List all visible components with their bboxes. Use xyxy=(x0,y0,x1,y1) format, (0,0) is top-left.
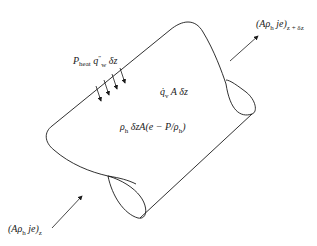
inflow-label: (Aρh je)z xyxy=(8,224,42,237)
inflow-arrow xyxy=(52,196,82,228)
stored-energy-label: ρh δzA(e − P/ρh) xyxy=(120,122,186,135)
outflow-label: (Aρh je)z + δz xyxy=(256,19,304,32)
heat-flux-label: Pheat q″w δz xyxy=(73,55,117,69)
outflow-arrow xyxy=(230,36,258,61)
heat-flux-arrows xyxy=(96,68,125,101)
volumetric-heat-label: q̇v A δz xyxy=(160,87,188,100)
